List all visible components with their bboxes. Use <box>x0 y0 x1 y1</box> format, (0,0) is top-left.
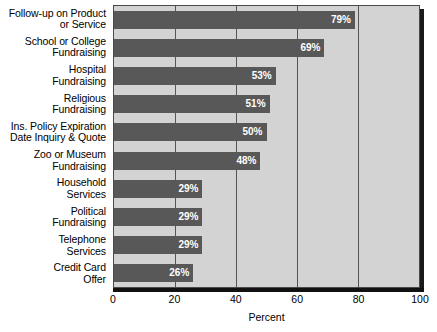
bar-row: 50% <box>114 118 419 146</box>
bar-chart: Follow-up on Productor ServiceSchool or … <box>0 0 437 332</box>
bar-row: 48% <box>114 146 419 174</box>
category-label: Ins. Policy ExpirationDate Inquiry & Quo… <box>0 118 110 146</box>
category-label-line: Telephone <box>58 234 106 246</box>
bar-value-label: 79% <box>331 15 351 25</box>
category-label-line: Fundraising <box>52 76 106 88</box>
bar-value-label: 50% <box>242 127 262 137</box>
x-axis-line <box>113 288 424 292</box>
x-tick-label: 0 <box>110 293 116 305</box>
category-label-line: Fundraising <box>52 104 106 116</box>
bar: 29% <box>114 180 202 198</box>
x-tick-label: 40 <box>230 293 242 305</box>
category-label-line: Fundraising <box>52 47 106 59</box>
bar-row: 53% <box>114 62 419 90</box>
bar-value-label: 51% <box>246 99 266 109</box>
bar-value-label: 53% <box>252 71 272 81</box>
x-axis-ticks: 020406080100 <box>113 293 420 307</box>
category-label-line: Services <box>67 189 106 201</box>
bar: 26% <box>114 264 193 282</box>
category-label: School or CollegeFundraising <box>0 33 110 61</box>
x-axis-title: Percent <box>113 311 420 323</box>
plot-area: 79%69%53%51%50%48%29%29%29%26% <box>113 5 420 288</box>
bar: 51% <box>114 95 270 113</box>
category-label-line: Date Inquiry & Quote <box>10 132 106 144</box>
category-label: ReligiousFundraising <box>0 90 110 118</box>
category-label-line: Fundraising <box>52 217 106 229</box>
bar: 69% <box>114 39 324 57</box>
bar-value-label: 29% <box>178 240 198 250</box>
category-label: Credit CardOffer <box>0 260 110 288</box>
bar-row: 51% <box>114 90 419 118</box>
bar-row: 29% <box>114 203 419 231</box>
bar-row: 79% <box>114 6 419 34</box>
category-label: HouseholdServices <box>0 175 110 203</box>
x-tick-label: 60 <box>291 293 303 305</box>
category-axis: Follow-up on Productor ServiceSchool or … <box>0 5 110 288</box>
bar: 50% <box>114 123 267 141</box>
bar-value-label: 29% <box>178 212 198 222</box>
x-tick-label: 20 <box>169 293 181 305</box>
bar-series: 79%69%53%51%50%48%29%29%29%26% <box>114 6 419 287</box>
bar-value-label: 29% <box>178 184 198 194</box>
bar: 79% <box>114 11 355 29</box>
category-label-line: Services <box>67 246 106 258</box>
bar-row: 29% <box>114 231 419 259</box>
category-label-line: Fundraising <box>52 161 106 173</box>
bar: 29% <box>114 208 202 226</box>
category-label-line: Offer <box>83 274 106 286</box>
bar-value-label: 69% <box>300 43 320 53</box>
category-label: TelephoneServices <box>0 231 110 259</box>
x-tick-label: 80 <box>353 293 365 305</box>
category-label-line: or Service <box>60 19 106 31</box>
category-label-line: Hospital <box>69 64 106 76</box>
bar-row: 26% <box>114 259 419 287</box>
x-tick-label: 100 <box>411 293 429 305</box>
bar: 48% <box>114 152 260 170</box>
category-label: Follow-up on Productor Service <box>0 5 110 33</box>
bar: 53% <box>114 67 276 85</box>
bar-row: 29% <box>114 175 419 203</box>
bar: 29% <box>114 236 202 254</box>
bar-value-label: 26% <box>169 268 189 278</box>
category-label: PoliticalFundraising <box>0 203 110 231</box>
bar-row: 69% <box>114 34 419 62</box>
category-label-line: Zoo or Museum <box>34 149 106 161</box>
bar-value-label: 48% <box>236 156 256 166</box>
category-label: HospitalFundraising <box>0 62 110 90</box>
category-label: Zoo or MuseumFundraising <box>0 146 110 174</box>
